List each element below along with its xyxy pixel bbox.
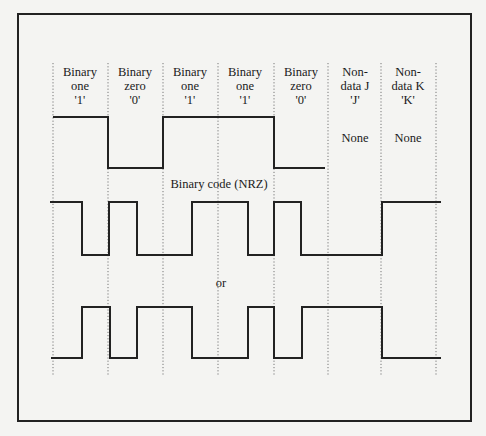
column-label-2: Binary zero '0' [108,65,162,107]
label-line: Binary [53,65,107,79]
label-line: Binary [163,65,217,79]
column-label-7: Non- data K 'K' [381,65,435,107]
manchester-waveform-a [50,202,441,255]
none-label-k: None [394,131,421,146]
label-line: one [53,79,107,93]
manchester-waveform-b [51,307,441,358]
label-line: Binary [108,65,162,79]
column-label-4: Binary one '1' [218,65,272,107]
column-label-3: Binary one '1' [163,65,217,107]
label-line: one [218,79,272,93]
label-line: 'J' [328,93,382,107]
nrz-waveform [53,117,325,168]
label-line: '1' [53,93,107,107]
label-line: data J [328,79,382,93]
label-line: zero [274,79,328,93]
column-label-6: Non- data J 'J' [328,65,382,107]
or-label: or [216,276,226,291]
label-line: Binary [274,65,328,79]
label-line: 'K' [381,93,435,107]
label-line: Binary [218,65,272,79]
label-line: Non- [328,65,382,79]
label-line: one [163,79,217,93]
column-label-1: Binary one '1' [53,65,107,107]
label-line: Non- [381,65,435,79]
column-label-5: Binary zero '0' [274,65,328,107]
nrz-caption: Binary code (NRZ) [170,177,267,192]
label-line: '0' [274,93,328,107]
label-line: '0' [108,93,162,107]
label-line: '1' [218,93,272,107]
none-label-j: None [341,131,368,146]
label-line: '1' [163,93,217,107]
label-line: data K [381,79,435,93]
label-line: zero [108,79,162,93]
